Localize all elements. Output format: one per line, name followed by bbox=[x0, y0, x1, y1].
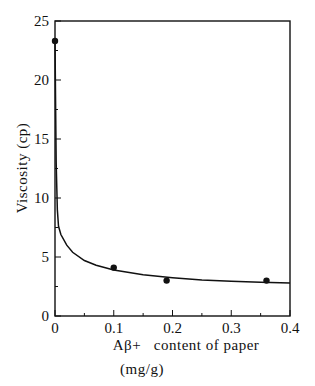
x-tick-label: 0.4 bbox=[281, 320, 300, 336]
x-axis-label: Aβ+ content of paper bbox=[113, 337, 260, 353]
viscosity-chart: 00.10.20.30.4 0510152025 Viscosity (cp) … bbox=[0, 0, 315, 386]
x-tick-label: 0.2 bbox=[163, 320, 182, 336]
fitted-curve-line bbox=[55, 41, 290, 283]
x-axis-ticks bbox=[55, 310, 290, 316]
y-tick-label: 5 bbox=[42, 249, 50, 265]
x-axis-tick-labels: 00.10.20.30.4 bbox=[51, 320, 300, 336]
y-tick-label: 15 bbox=[34, 131, 49, 147]
data-point-marker bbox=[52, 38, 58, 44]
data-point-marker bbox=[263, 277, 269, 283]
x-axis-unit-label: (mg/g) bbox=[120, 361, 164, 378]
y-tick-label: 20 bbox=[34, 72, 49, 88]
data-point-marker bbox=[111, 264, 117, 270]
plot-frame bbox=[55, 21, 290, 316]
y-tick-label: 0 bbox=[42, 308, 50, 324]
y-tick-label: 10 bbox=[34, 190, 49, 206]
x-tick-label: 0.3 bbox=[222, 320, 241, 336]
data-point-marker bbox=[163, 277, 169, 283]
y-axis-label: Viscosity (cp) bbox=[14, 123, 31, 214]
data-points bbox=[52, 38, 270, 284]
y-tick-label: 25 bbox=[34, 13, 49, 29]
y-axis-tick-labels: 0510152025 bbox=[34, 13, 49, 324]
x-tick-label: 0.1 bbox=[104, 320, 123, 336]
x-tick-label: 0 bbox=[51, 320, 59, 336]
